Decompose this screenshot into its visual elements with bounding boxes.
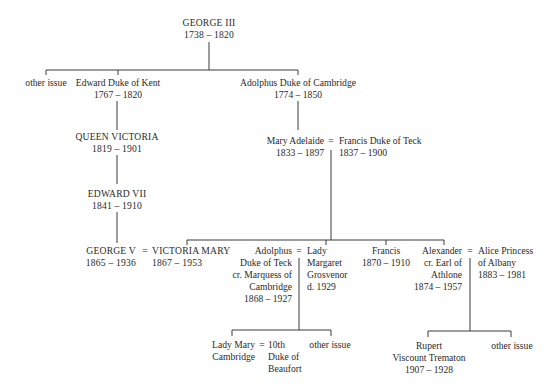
person-dates: 1767 – 1820 (76, 89, 160, 101)
person-title: Beaufort (268, 363, 302, 375)
person-dates: 1865 – 1936 (86, 257, 136, 269)
marriage-symbol: = (142, 245, 147, 257)
marriage-symbol: = (467, 245, 472, 257)
person-francis: Francis 1870 – 1910 (362, 245, 410, 269)
person-title: Duke of Teck (233, 257, 292, 269)
person-dates: 1833 – 1897 (267, 147, 324, 159)
person-rupert-viscount-trematon: Rupert Viscount Trematon 1907 – 1928 (392, 340, 465, 376)
person-name: EDWARD VII (88, 188, 147, 200)
person-queen-victoria: QUEEN VICTORIA 1819 – 1901 (75, 131, 158, 155)
family-tree-diagram: GEORGE III 1738 – 1820 other issue Edwar… (0, 0, 560, 389)
person-name: Edward Duke of Kent (76, 77, 160, 89)
person-name: Rupert (392, 340, 465, 352)
person-lady-margaret-grosvenor: Lady Margaret Grosvenor d. 1929 (307, 245, 348, 293)
person-name: GEORGE V (86, 245, 136, 257)
person-name: Adolphus (233, 245, 292, 257)
marriage-symbol: = (328, 135, 333, 147)
person-mary-adelaide: Mary Adelaide 1833 – 1897 (267, 135, 324, 159)
marriage-symbol: = (296, 245, 301, 257)
person-lady-mary-cambridge: Lady Mary Cambridge (212, 339, 255, 363)
person-edward-duke-of-kent: Edward Duke of Kent 1767 – 1820 (76, 77, 160, 101)
person-dates: 1774 – 1850 (240, 89, 356, 101)
person-name: Francis Duke of Teck (339, 135, 422, 147)
person-name: Alice Princess (478, 245, 533, 257)
person-name: other issue (25, 77, 66, 89)
person-francis-duke-of-teck: Francis Duke of Teck 1837 – 1900 (339, 135, 422, 159)
person-dates: 1870 – 1910 (362, 257, 410, 269)
person-title: Duke of (268, 351, 302, 363)
person-title: Viscount Trematon (392, 352, 465, 364)
person-title: cr. Earl of (414, 257, 462, 269)
person-adolphus-duke-of-teck: Adolphus Duke of Teck cr. Marquess of Ca… (233, 245, 292, 305)
person-edward-vii: EDWARD VII 1841 – 1910 (88, 188, 147, 212)
person-other-issue-george-iii: other issue (25, 77, 66, 89)
person-title: Athlone (414, 269, 462, 281)
person-duke-of-beaufort: 10th Duke of Beaufort (268, 339, 302, 375)
person-title: Cambridge (233, 281, 292, 293)
person-title: cr. Marquess of (233, 269, 292, 281)
person-name: other issue (309, 339, 350, 351)
person-george-iii: GEORGE III 1738 – 1820 (183, 17, 236, 41)
person-dates: d. 1929 (307, 281, 348, 293)
person-name: other issue (491, 340, 532, 352)
person-name: Cambridge (212, 351, 255, 363)
person-other-issue-adolphus: other issue (309, 339, 350, 351)
person-title: of Albany (478, 257, 533, 269)
person-dates: 1841 – 1910 (88, 200, 147, 212)
person-dates: 1819 – 1901 (75, 143, 158, 155)
person-name: Lady (307, 245, 348, 257)
person-name: Grosvenor (307, 269, 348, 281)
person-name: 10th (268, 339, 302, 351)
tree-connector-lines (0, 0, 560, 389)
person-name: Margaret (307, 257, 348, 269)
person-other-issue-alexander: other issue (491, 340, 532, 352)
person-name: VICTORIA MARY (152, 245, 230, 257)
person-dates: 1867 – 1953 (152, 257, 230, 269)
person-victoria-mary: VICTORIA MARY 1867 – 1953 (152, 245, 230, 269)
person-george-v: GEORGE V 1865 – 1936 (86, 245, 136, 269)
person-name: Alexander (414, 245, 462, 257)
person-alexander-earl-of-athlone: Alexander cr. Earl of Athlone 1874 – 195… (414, 245, 462, 293)
person-alice-princess-of-albany: Alice Princess of Albany 1883 – 1981 (478, 245, 533, 281)
person-dates: 1837 – 1900 (339, 147, 422, 159)
person-dates: 1883 – 1981 (478, 269, 533, 281)
person-name: Lady Mary (212, 339, 255, 351)
person-name: GEORGE III (183, 17, 236, 29)
person-dates: 1868 – 1927 (233, 293, 292, 305)
person-dates: 1738 – 1820 (183, 29, 236, 41)
person-name: Francis (362, 245, 410, 257)
person-dates: 1907 – 1928 (392, 364, 465, 376)
person-name: QUEEN VICTORIA (75, 131, 158, 143)
marriage-symbol: = (259, 339, 264, 351)
person-name: Adolphus Duke of Cambridge (240, 77, 356, 89)
person-name: Mary Adelaide (267, 135, 324, 147)
person-adolphus-duke-of-cambridge: Adolphus Duke of Cambridge 1774 – 1850 (240, 77, 356, 101)
person-dates: 1874 – 1957 (414, 281, 462, 293)
